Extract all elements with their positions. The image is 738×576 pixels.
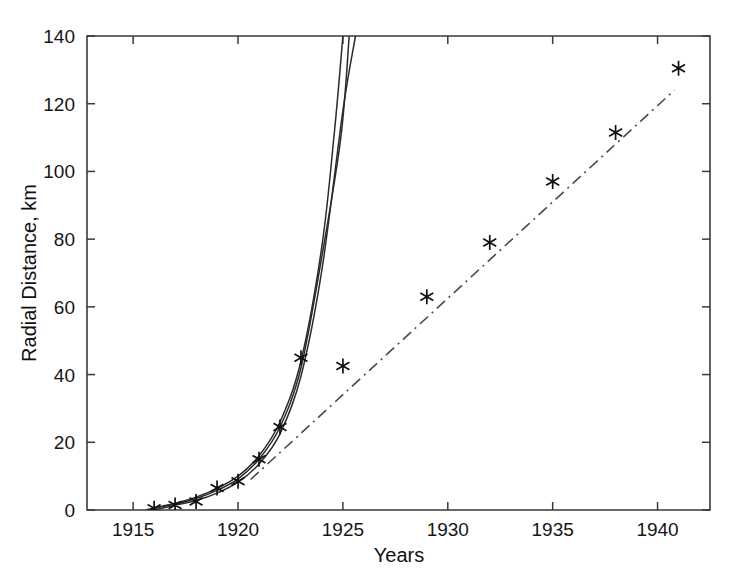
y-tick-label: 20: [54, 432, 75, 453]
x-tick-label: 1940: [636, 519, 678, 540]
figure-background: [0, 0, 738, 576]
y-tick-label: 80: [54, 229, 75, 250]
y-tick-label: 120: [43, 94, 75, 115]
x-axis-title: Years: [374, 544, 424, 566]
x-tick-label: 1925: [322, 519, 364, 540]
x-tick-label: 1915: [112, 519, 154, 540]
chart-figure: 1915192019251930193519400204060801001201…: [0, 0, 738, 576]
y-tick-label: 40: [54, 365, 75, 386]
y-tick-label: 140: [43, 26, 75, 47]
y-tick-label: 0: [64, 500, 75, 521]
y-tick-label: 100: [43, 161, 75, 182]
x-tick-label: 1930: [427, 519, 469, 540]
radial-distance-scatter-plot: 1915192019251930193519400204060801001201…: [0, 0, 738, 576]
x-tick-label: 1935: [532, 519, 574, 540]
y-tick-label: 60: [54, 297, 75, 318]
x-tick-label: 1920: [217, 519, 259, 540]
y-axis-title: Radial Distance, km: [18, 184, 40, 362]
